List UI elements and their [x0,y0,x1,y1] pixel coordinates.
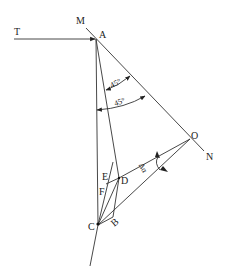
delta-arrow-top-icon [155,151,160,158]
label-A: A [99,29,107,40]
label-C: C [88,221,95,232]
label-T: T [14,26,20,37]
label-B: B [108,216,120,229]
angle-label-upper: 45° [109,77,123,90]
label-M: M [76,15,85,26]
angle-label-lower: 45° [113,96,127,108]
label-D: D [121,175,128,186]
label-E: E [102,171,108,182]
line-AC [96,39,98,225]
geometry-diagram: T M A O N C D B E F 45° 45° Δα [0,0,227,275]
label-O: O [191,130,198,141]
point-C-marker [96,222,99,225]
label-F: F [99,186,105,197]
label-N: N [206,151,213,162]
line-MN [86,28,204,151]
angle-label-delta: Δα [137,162,150,175]
point-D-marker [118,177,120,179]
delta-arrow-bottom-icon [160,166,168,172]
diagram-canvas: T M A O N C D B E F 45° 45° Δα [0,0,227,275]
line-OC [98,139,190,225]
